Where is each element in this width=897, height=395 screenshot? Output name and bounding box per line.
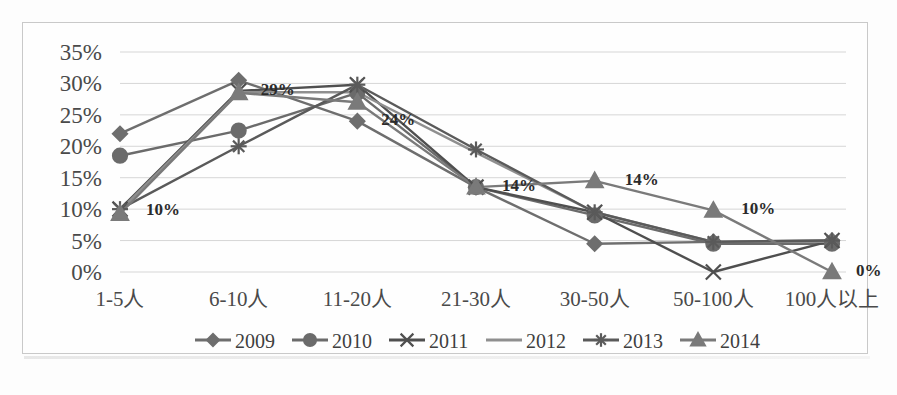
legend-item-2013[interactable]: 2013 xyxy=(583,330,663,352)
y-axis-tick-label: 30% xyxy=(60,71,102,96)
data-point-marker-asterisk xyxy=(587,204,603,220)
legend-item-2014[interactable]: 2014 xyxy=(680,330,760,352)
data-point-marker-asterisk xyxy=(349,77,365,93)
x-axis-tick-label: 100人以上 xyxy=(785,287,880,311)
data-point-marker-asterisk xyxy=(824,233,840,249)
legend-label-2009: 2009 xyxy=(235,330,275,352)
data-label: 10% xyxy=(741,199,775,218)
series-line-2013 xyxy=(120,85,832,242)
x-axis-tick-label: 50-100人 xyxy=(673,287,754,311)
legend-label-2010: 2010 xyxy=(332,330,372,352)
legend-item-2010[interactable]: 2010 xyxy=(292,330,372,352)
chart-container: 0%5%10%15%20%25%30%35%1-5人6-10人11-20人21-… xyxy=(0,0,897,395)
data-point-marker-asterisk xyxy=(594,333,608,347)
legend-item-2012[interactable]: 2012 xyxy=(486,330,566,352)
y-axis-tick-label: 0% xyxy=(71,260,102,285)
legend-label-2012: 2012 xyxy=(526,330,566,352)
data-point-marker-asterisk xyxy=(705,234,721,250)
data-label: 0% xyxy=(856,261,882,280)
y-axis-tick-label: 15% xyxy=(60,166,102,191)
legend-item-2009[interactable]: 2009 xyxy=(195,330,275,352)
y-axis-tick-label: 5% xyxy=(71,229,102,254)
y-axis-tick-label: 20% xyxy=(60,134,102,159)
data-point-marker-asterisk xyxy=(468,141,484,157)
x-axis-tick-label: 30-50人 xyxy=(560,287,630,311)
x-axis-tick-label: 11-20人 xyxy=(323,287,392,311)
legend-label-2013: 2013 xyxy=(623,330,663,352)
data-label: 24% xyxy=(381,110,415,129)
data-point-marker-diamond xyxy=(113,127,127,141)
data-point-marker-circle xyxy=(232,124,246,138)
legend-label-2014: 2014 xyxy=(720,330,760,352)
y-axis-tick-label: 35% xyxy=(60,40,102,65)
data-point-marker-diamond xyxy=(207,334,219,346)
data-label: 29% xyxy=(261,80,295,99)
series-line-2010 xyxy=(120,93,832,244)
data-point-marker-circle xyxy=(304,334,316,346)
x-axis-tick-label: 1-5人 xyxy=(96,287,145,311)
data-label: 14% xyxy=(502,176,536,195)
data-point-marker-diamond xyxy=(350,114,364,128)
data-label: 14% xyxy=(625,170,659,189)
data-label: 10% xyxy=(146,200,180,219)
line-chart-svg: 0%5%10%15%20%25%30%35%1-5人6-10人11-20人21-… xyxy=(0,0,897,395)
data-point-marker-triangle xyxy=(824,264,840,278)
data-point-marker-asterisk xyxy=(231,138,247,154)
legend-item-2011[interactable]: 2011 xyxy=(389,330,468,352)
x-axis-tick-label: 6-10人 xyxy=(209,287,269,311)
data-point-marker-circle xyxy=(113,149,127,163)
y-axis-tick-label: 10% xyxy=(60,197,102,222)
y-axis-tick-label: 25% xyxy=(60,103,102,128)
legend-label-2011: 2011 xyxy=(429,330,468,352)
x-axis-tick-label: 21-30人 xyxy=(441,287,511,311)
data-point-marker-diamond xyxy=(588,237,602,251)
